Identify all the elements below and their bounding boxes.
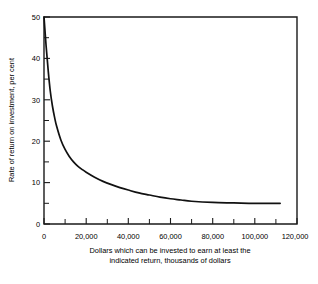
chart-svg: 50 40 30 20 10 0 0 20,000 40,000 60,000 … xyxy=(0,0,318,284)
y-tick-label-30: 30 xyxy=(32,96,40,105)
x-axis-ticks xyxy=(44,218,297,224)
x-tick-label-40000: 40,000 xyxy=(117,232,140,241)
y-tick-label-0: 0 xyxy=(36,220,40,229)
x-tick-label-100000: 100,000 xyxy=(241,232,268,241)
x-axis-title-line-2: indicated return, thousands of dollars xyxy=(109,256,231,265)
x-tick-label-20000: 20,000 xyxy=(75,232,98,241)
y-tick-label-40: 40 xyxy=(32,54,40,63)
y-tick-label-20: 20 xyxy=(32,137,40,146)
x-tick-label-0: 0 xyxy=(42,232,46,241)
data-series-group xyxy=(44,17,280,203)
data-curve-rate-of-return xyxy=(44,17,280,203)
x-axis-title-line-1: Dollars which can be invested to earn at… xyxy=(89,246,250,255)
x-tick-label-60000: 60,000 xyxy=(159,232,182,241)
chart-figure: 50 40 30 20 10 0 0 20,000 40,000 60,000 … xyxy=(0,0,318,284)
y-axis-title: Rate of return on investment, per cent xyxy=(7,58,16,182)
x-tick-labels: 0 20,000 40,000 60,000 80,000 100,000 12… xyxy=(42,232,308,241)
axis-frame-path xyxy=(44,17,297,224)
plot-frame xyxy=(44,17,297,224)
y-tick-label-50: 50 xyxy=(32,13,40,22)
y-tick-labels: 50 40 30 20 10 0 xyxy=(32,13,40,229)
x-tick-label-80000: 80,000 xyxy=(201,232,224,241)
y-tick-label-10: 10 xyxy=(32,178,40,187)
x-tick-label-120000: 120,000 xyxy=(282,232,309,241)
